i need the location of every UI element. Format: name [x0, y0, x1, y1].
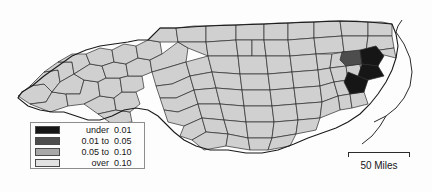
legend-label: under: [60, 126, 114, 135]
scale-bar-line: [348, 152, 410, 153]
legend-label: 0.05 to: [60, 148, 114, 157]
legend-swatch-under-001: [35, 126, 60, 134]
scale-bar-graphic: [348, 152, 410, 159]
legend-row: over 0.10: [35, 158, 140, 168]
legend-label: 0.01 to: [60, 137, 114, 146]
map-scale-bar: 50 Miles: [344, 152, 414, 172]
scale-bar-tick-left: [348, 152, 349, 157]
legend-row: 0.05 to 0.10: [35, 147, 140, 157]
map-figure: under 0.01 0.01 to 0.05 0.05 to 0.10 ove…: [0, 0, 432, 192]
legend-label: over: [60, 159, 114, 168]
scale-bar-tick-right: [409, 152, 410, 157]
legend-value: 0.05: [114, 137, 140, 146]
legend-swatch-005-010: [35, 148, 60, 156]
legend-value: 0.10: [114, 159, 140, 168]
legend-row: 0.01 to 0.05: [35, 136, 140, 146]
legend-row: under 0.01: [35, 125, 140, 135]
scale-bar-label: 50 Miles: [344, 160, 414, 172]
legend-swatch-001-005: [35, 137, 60, 145]
legend-value: 0.10: [114, 148, 140, 157]
legend-swatch-over-010: [35, 159, 60, 167]
legend-value: 0.01: [114, 126, 140, 135]
map-legend: under 0.01 0.01 to 0.05 0.05 to 0.10 ove…: [30, 122, 145, 169]
